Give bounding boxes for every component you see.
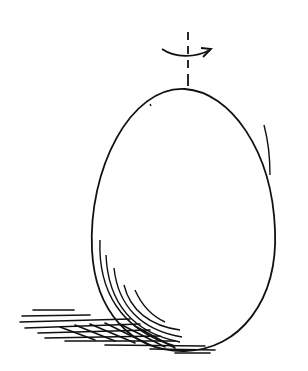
shadow-hatching [20,310,215,353]
egg-illustration [0,0,308,371]
rotation-axis-icon [162,32,211,86]
egg-shading [100,104,270,346]
egg-outline [92,89,275,351]
